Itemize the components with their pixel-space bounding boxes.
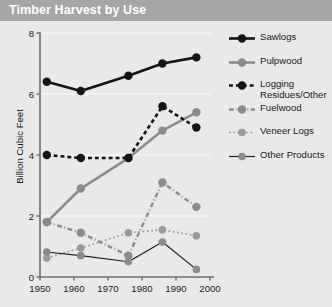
page-title: Timber Harvest by Use [9,3,146,17]
y-axis-tick-label: 6 [29,89,34,100]
series-line [47,182,197,255]
data-point [192,53,200,61]
data-point [124,72,132,80]
x-axis-tick-label: 1950 [29,283,50,294]
series-sawlogs [43,53,201,95]
data-point [77,229,85,237]
data-point [43,248,51,256]
data-point [158,126,166,134]
data-point [43,78,51,86]
x-axis-tick-label: 1970 [97,283,118,294]
series-pulpwood [43,108,201,226]
data-point [77,87,85,95]
legend-point [238,129,246,137]
data-point [193,232,201,240]
legend-label: Pulpwood [260,55,332,66]
series-fuelwood [43,178,201,260]
data-point [159,226,167,234]
series-logging-residues-other [43,102,201,162]
y-axis-tick-label: 8 [29,28,34,39]
legend-item-logging-residues-other[interactable]: Logging Residues/Other [228,79,332,92]
legend-point [238,34,246,42]
series-line [47,112,197,222]
y-axis-label: Billion Cubic Feet [14,82,25,212]
chart-legend: SawlogsPulpwoodLogging Residues/OtherFue… [228,32,332,173]
legend-marker [228,32,256,45]
series-line [47,106,197,158]
chart-panel: Timber Harvest by Use 024681950196019701… [0,0,332,307]
legend-label: Fuelwood [260,102,332,113]
series-line [47,57,197,91]
data-point [192,108,200,116]
series-veneer-logs [43,226,200,262]
chart-title-bar: Timber Harvest by Use [0,0,332,21]
data-point [43,151,51,159]
data-point [125,258,133,266]
legend-point [238,105,246,113]
legend-item-sawlogs[interactable]: Sawlogs [228,32,332,45]
legend-item-pulpwood[interactable]: Pulpwood [228,56,332,69]
data-point [125,229,133,237]
data-point [77,184,85,192]
x-axis-tick-label: 2000 [199,283,220,294]
legend-label: Veneer Logs [260,125,332,136]
legend-point [238,152,246,160]
data-point [43,218,51,226]
data-point [158,59,166,67]
data-point [193,266,201,274]
x-axis-tick-label: 1990 [165,283,186,294]
y-axis-tick-label: 4 [29,150,35,161]
data-point [192,203,200,211]
legend-point [238,81,246,89]
legend-point [238,58,246,66]
chart-figure: 02468195019601970198019902000 Billion Cu… [0,21,332,307]
legend-marker [228,103,256,116]
y-axis-tick-label: 0 [29,272,34,283]
data-point [192,123,200,131]
legend-marker [228,79,256,92]
data-point [77,252,85,260]
legend-marker [228,150,256,163]
data-point [77,244,85,252]
legend-label: Other Products [260,149,332,160]
data-point [158,102,166,110]
series-line [47,242,197,269]
legend-marker [228,56,256,69]
data-point [158,178,166,186]
data-point [159,238,167,246]
legend-item-fuelwood[interactable]: Fuelwood [228,103,332,116]
legend-label: Sawlogs [260,31,332,42]
legend-label: Logging Residues/Other [260,78,332,101]
y-axis-tick-label: 2 [29,211,34,222]
series-other-products [43,238,200,273]
legend-item-other-products[interactable]: Other Products [228,150,332,163]
x-axis-tick-label: 1980 [131,283,152,294]
legend-marker [228,126,256,139]
data-point [77,154,85,162]
x-axis-tick-label: 1960 [63,283,84,294]
legend-item-veneer-logs[interactable]: Veneer Logs [228,126,332,139]
data-point [124,154,132,162]
